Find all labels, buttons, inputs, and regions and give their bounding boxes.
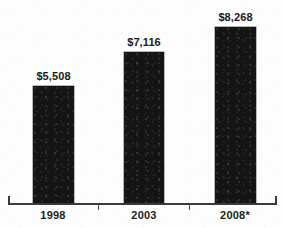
bar-1998 — [33, 86, 74, 204]
bar-group-2008: $8,268 — [215, 27, 256, 204]
bar-group-1998: $5,508 — [33, 86, 74, 204]
bar-value-label-2008: $8,268 — [218, 11, 252, 23]
x-axis-line — [8, 203, 277, 205]
bar-value-label-1998: $5,508 — [36, 70, 70, 82]
category-label-2003: 2003 — [131, 209, 156, 221]
category-label-1998: 1998 — [40, 209, 65, 221]
bar-chart: $5,508 $7,116 $8,268 1998 2003 2008* — [0, 0, 284, 228]
bar-2008 — [215, 27, 256, 204]
bar-value-label-2003: $7,116 — [127, 36, 161, 48]
x-axis-tick-1 — [98, 204, 99, 210]
bar-2003 — [124, 52, 164, 204]
x-axis-right-cap — [275, 196, 277, 204]
x-axis-tick-2 — [189, 204, 190, 210]
x-axis-left-cap — [8, 196, 10, 204]
category-label-2008: 2008* — [220, 209, 250, 221]
bar-group-2003: $7,116 — [124, 52, 164, 204]
plot-area: $5,508 $7,116 $8,268 — [0, 0, 284, 204]
